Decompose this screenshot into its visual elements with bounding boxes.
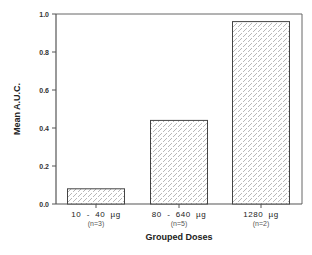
x-axis-title: Grouped Doses xyxy=(145,232,212,242)
x-axis-labels: 10 - 40 µg(n=3)80 - 640 µg(n=5)1280 µg(n… xyxy=(71,204,278,228)
y-axis-title: Mean A.U.C. xyxy=(12,83,22,135)
bar xyxy=(151,120,208,204)
y-tick-label: 1.0 xyxy=(39,11,49,18)
category-label: 80 - 640 µg xyxy=(152,210,206,219)
y-tick-label: 0.8 xyxy=(39,49,49,56)
category-label: 1280 µg xyxy=(243,210,278,219)
y-tick-label: 0.6 xyxy=(39,87,49,94)
y-tick-label: 0.0 xyxy=(39,201,49,208)
bar xyxy=(68,189,125,204)
y-tick-label: 0.2 xyxy=(39,163,49,170)
bar xyxy=(233,22,290,204)
category-label: 10 - 40 µg xyxy=(71,210,120,219)
y-tick-label: 0.4 xyxy=(39,125,49,132)
y-axis-ticks: 0.00.20.40.60.81.0 xyxy=(39,11,56,208)
sample-size-label: (n=2) xyxy=(253,220,270,228)
bar-chart: 0.00.20.40.60.81.0 10 - 40 µg(n=3)80 - 6… xyxy=(0,0,312,255)
sample-size-label: (n=3) xyxy=(88,220,105,228)
bars xyxy=(68,22,290,204)
sample-size-label: (n=5) xyxy=(171,220,188,228)
